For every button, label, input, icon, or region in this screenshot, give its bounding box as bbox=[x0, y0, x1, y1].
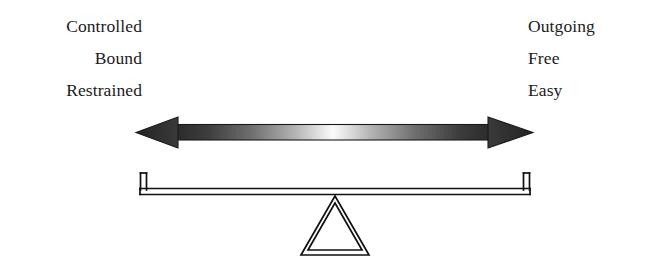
double-headed-arrow bbox=[136, 117, 533, 148]
arrow-head-left bbox=[136, 117, 178, 148]
balance-beam bbox=[140, 189, 530, 195]
arrow-shaft bbox=[176, 125, 490, 141]
arrow-head-right bbox=[488, 117, 533, 148]
continuum-figure: Controlled Bound Restrained Outgoing Fre… bbox=[0, 0, 668, 268]
seesaw-balance bbox=[140, 173, 530, 255]
fulcrum-triangle bbox=[301, 196, 369, 255]
beam-end-post-right bbox=[524, 173, 530, 190]
continuum-artwork bbox=[0, 0, 668, 268]
beam-end-post-left bbox=[141, 173, 147, 190]
